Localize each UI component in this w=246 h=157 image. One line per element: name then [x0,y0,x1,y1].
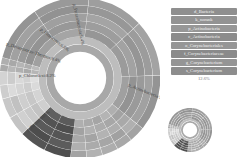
segment-p-bacteroidetes[interactable] [84,125,96,134]
segment-p-bacteroidetes[interactable] [71,150,87,157]
segment-p-firmicutes[interactable] [0,71,7,85]
segment-p-firmicutes[interactable] [16,83,25,94]
overview-sunburst-thumbnail[interactable] [168,108,212,152]
segment-p-bacteroidetes[interactable] [187,150,191,152]
ring-0[interactable] [182,122,198,138]
segment-p-bacteroidetes[interactable] [188,148,192,150]
legend-item[interactable]: k_norank [171,16,237,23]
segment-p-bacteroidetes[interactable] [188,144,191,146]
legend-item[interactable]: o_Corynebacteriales [171,42,237,49]
legend-item[interactable]: s_Corynebacterium [171,67,237,74]
segment-p-firmicutes[interactable] [175,131,177,134]
legend-item[interactable]: f_Corynebacteriaceae [171,50,237,57]
segment-p-proteobacteria[interactable] [8,66,16,73]
segment-p-bacteroidetes[interactable] [72,143,86,151]
segment-label: p_Chloroflexi:8.2% [19,73,56,78]
segment-p-bacteroidetes[interactable] [188,141,191,143]
segment-p-bacteroidetes[interactable] [188,146,191,148]
segment-p-bacteroidetes[interactable] [72,135,85,143]
segment-p-firmicutes[interactable] [170,132,172,135]
segment-p-firmicutes[interactable] [177,131,179,133]
segment-p-bacteroidetes[interactable] [73,127,84,135]
segment-p-firmicutes[interactable] [8,72,16,84]
segment-p-proteobacteria[interactable] [168,126,170,128]
segment-p-firmicutes[interactable] [177,129,179,131]
legend-item[interactable]: g_Corynebacterium [171,59,237,66]
legend-item[interactable]: c_Actinobacteria [171,33,237,40]
segment-p-proteobacteria[interactable] [172,127,174,129]
segment-p-proteobacteria[interactable] [170,127,172,129]
legend-percent: 12.6% [171,76,237,81]
segment-p-firmicutes[interactable] [172,131,174,134]
segment-p-bacteroidetes[interactable] [84,118,94,127]
segment-p-firmicutes[interactable] [168,128,170,132]
segment-p-bacteroidetes[interactable] [74,119,84,127]
segment-p-bacteroidetes[interactable] [191,141,194,143]
segment-p-firmicutes[interactable] [23,83,32,93]
segment-p-bacteroidetes[interactable] [192,147,196,150]
segment-p-proteobacteria[interactable] [168,124,170,126]
legend-item[interactable]: d_Bacteria [171,8,237,15]
legend-item[interactable]: p_Actinobacteria [171,25,237,32]
segment-p-firmicutes[interactable] [175,129,177,132]
segment-p-proteobacteria[interactable] [175,127,177,128]
segment-p-bacteroidetes[interactable] [191,143,194,145]
segment-p-bacteroidetes[interactable] [192,149,196,152]
segment-p-firmicutes[interactable] [168,132,170,136]
segment-p-proteobacteria[interactable] [0,64,8,71]
segment-p-bacteroidetes[interactable] [191,145,195,147]
sunburst-chart: p_Actinobacteria:56.7%p_Bacteroidetesp_C… [0,0,160,157]
segment-p-firmicutes[interactable] [170,128,172,131]
segment-p-firmicutes[interactable] [172,129,174,132]
taxonomy-legend: d_Bacteriak_norankp_Actinobacteriac_Acti… [171,8,237,81]
